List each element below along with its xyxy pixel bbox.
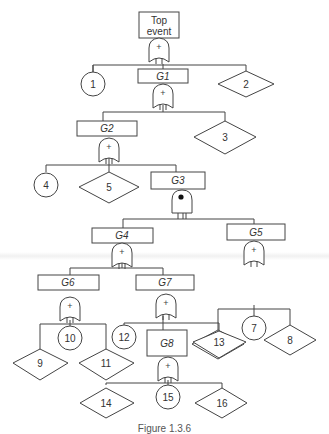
event-label: 9 [37,358,43,369]
g8-or-gate: + [158,357,178,383]
event-label: 7 [251,323,257,334]
basic-event-10[interactable]: 10 [58,326,82,350]
undeveloped-event-8[interactable]: 8 [264,325,316,355]
undeveloped-event-11[interactable]: 11 [79,349,134,380]
basic-event-12[interactable]: 12 [112,325,136,349]
g6-or-gate: + [60,297,80,323]
event-label: 12 [118,332,130,343]
top-event[interactable]: Top event [139,12,179,38]
or-symbol: + [119,247,124,257]
gate-label: G6 [61,277,75,288]
gate-label: G4 [115,230,129,241]
event-label: 5 [106,182,112,193]
priority-dot-icon [178,194,183,199]
top-event-label-line1: Top [151,15,168,26]
or-symbol: + [156,42,161,52]
or-symbol: + [106,142,111,152]
top-event-label-line2: event [147,26,172,37]
or-symbol: + [163,298,168,308]
gate-g7[interactable]: G7 [136,275,194,290]
event-label: 16 [216,398,228,409]
top-or-gate: + [149,38,169,64]
event-label: 14 [100,398,112,409]
event-label: 13 [213,337,225,348]
event-label: 1 [90,79,96,90]
event-label: 15 [162,392,174,403]
event-label: 11 [101,358,112,369]
basic-event-7[interactable]: 7 [242,316,266,340]
undeveloped-event-2[interactable]: 2 [218,71,274,97]
gate-g1[interactable]: G1 [138,69,188,83]
basic-event-4[interactable]: 4 [34,173,58,197]
basic-event-15[interactable]: 15 [156,385,180,409]
figure-caption: Figure 1.3.6 [0,423,329,434]
g3-priority-and-gate [172,190,192,219]
undeveloped-event-3[interactable]: 3 [194,121,256,154]
event-label: 3 [222,132,228,143]
undeveloped-event-5[interactable]: 5 [79,172,139,203]
event-label: 2 [243,79,249,90]
or-symbol: + [160,88,165,98]
gate-g2[interactable]: G2 [77,121,137,136]
or-symbol: + [67,301,72,311]
undeveloped-event-16[interactable]: 16 [195,388,247,418]
g5-or-gate: + [244,241,264,267]
gate-label: G7 [158,277,172,288]
event-label: 10 [64,333,76,344]
gate-g5[interactable]: G5 [227,224,285,240]
or-symbol: + [251,245,256,255]
event-label: 8 [287,335,293,346]
undeveloped-event-14[interactable]: 14 [80,388,134,418]
gate-g8[interactable]: G8 [147,330,187,356]
basic-event-1[interactable]: 1 [81,72,105,96]
event-label: 4 [43,180,49,191]
g7-or-gate: + [156,294,176,320]
undeveloped-event-9[interactable]: 9 [13,349,68,380]
gate-label: G8 [160,338,174,349]
gate-label: G3 [171,175,185,186]
gate-g3[interactable]: G3 [151,172,205,189]
gate-g4[interactable]: G4 [92,228,153,243]
gate-g6[interactable]: G6 [38,275,99,290]
or-symbol: + [165,361,170,371]
gate-label: G1 [156,71,169,82]
gate-label: G5 [249,227,263,238]
undeveloped-event-13[interactable]: 13 [193,331,246,358]
gate-label: G2 [100,123,114,134]
